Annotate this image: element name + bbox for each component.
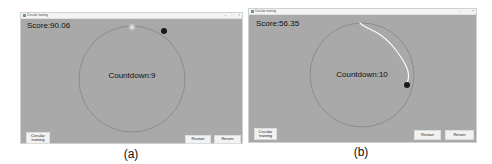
app-icon <box>251 10 254 13</box>
mode-button-line2: training <box>259 134 272 139</box>
countdown-label: Countdown:9 <box>108 71 155 80</box>
score-label: Score:90.06 <box>27 21 70 30</box>
restart-button[interactable]: Restart <box>185 135 211 144</box>
game-window-b: Circular training – □ × Score:56.35 Coun… <box>248 8 477 143</box>
mode-button-circular-training[interactable]: Circular training <box>254 128 277 140</box>
ball-icon <box>161 28 167 34</box>
caption-a: (a) <box>124 147 139 161</box>
game-canvas[interactable]: Score:56.35 Countdown:10 Circular traini… <box>249 14 476 142</box>
app-icon <box>23 14 26 17</box>
countdown-label: Countdown:10 <box>336 70 388 79</box>
return-button[interactable]: Return <box>214 135 241 144</box>
circle-track <box>249 14 478 144</box>
mode-button-circular-training[interactable]: Circular training <box>26 132 50 144</box>
start-marker-icon <box>128 23 136 31</box>
game-window-a: Circular training – □ × Score:90.06 Coun… <box>20 12 243 144</box>
mode-button-line2: training <box>31 138 44 143</box>
game-canvas[interactable]: Score:90.06 Countdown:9 Circular trainin… <box>21 18 242 143</box>
ball-icon <box>404 82 410 88</box>
restart-button[interactable]: Restart <box>414 130 441 140</box>
return-button[interactable]: Return <box>445 130 474 140</box>
circle-track <box>21 18 244 145</box>
score-label: Score:56.35 <box>256 19 299 28</box>
caption-b: (b) <box>354 145 369 159</box>
